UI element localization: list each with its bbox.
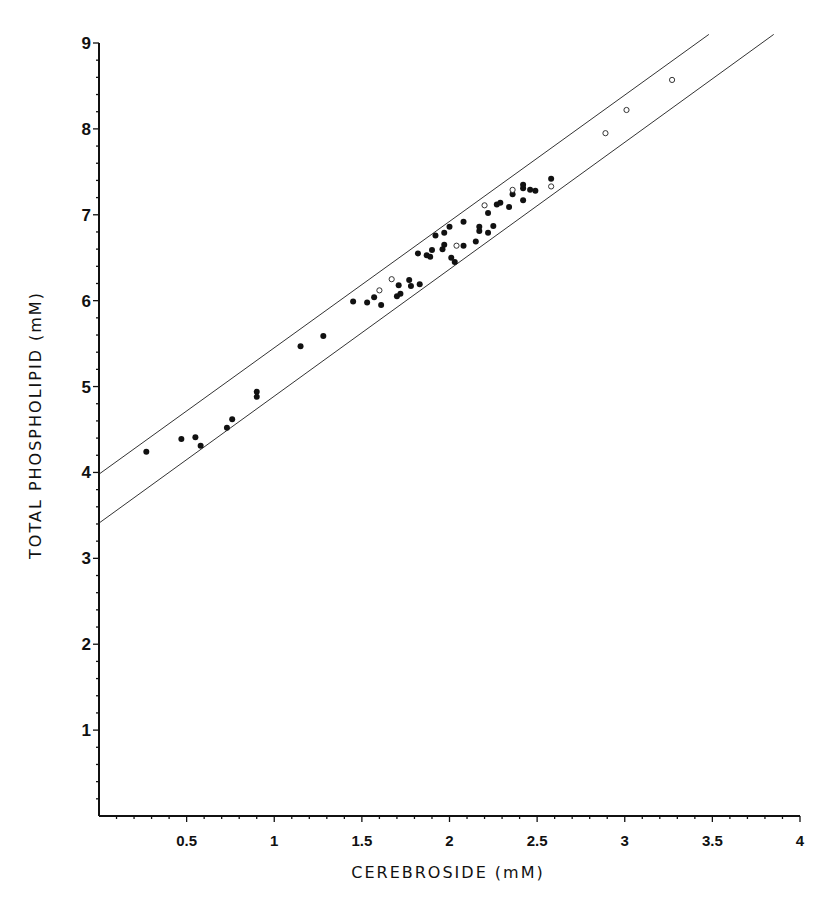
filled-circle-point — [198, 443, 204, 449]
filled-circle-point — [415, 250, 421, 256]
filled-circle-point — [452, 259, 458, 265]
upper-bound-line — [99, 34, 709, 474]
filled-circle-point — [461, 243, 467, 249]
open-circle-point — [389, 277, 394, 282]
filled-circle-point — [378, 302, 384, 308]
open-circle-point — [454, 243, 459, 248]
filled-circle-point — [298, 343, 304, 349]
x-tick-label: 0.5 — [176, 832, 197, 849]
filled-circle-point — [485, 210, 491, 216]
filled-circle-point — [229, 416, 235, 422]
open-circle-point — [603, 131, 608, 136]
x-tick-label: 2.5 — [527, 832, 548, 849]
open-circle-point — [377, 288, 382, 293]
filled-circle-point — [396, 282, 402, 288]
x-axis-ticks: 0.511.522.533.54 — [117, 816, 805, 849]
y-tick-label: 9 — [82, 34, 91, 53]
y-tick-label: 1 — [82, 721, 91, 740]
filled-circle-point — [408, 283, 414, 289]
filled-circle-point — [532, 188, 538, 194]
y-tick-label: 5 — [82, 378, 91, 397]
filled-circle-point — [506, 204, 512, 210]
filled-circle-point — [473, 238, 479, 244]
filled-circle-point — [320, 333, 326, 339]
x-tick-label: 1.5 — [351, 832, 372, 849]
x-axis-title: CEREBROSIDE (mM) — [351, 863, 544, 882]
open-circle-point — [482, 203, 487, 208]
x-tick-label: 1 — [270, 832, 278, 849]
open-circle-point — [624, 107, 629, 112]
x-tick-label: 4 — [796, 832, 805, 849]
y-axis-ticks: 123456789 — [82, 34, 99, 799]
y-axis-title: TOTAL PHOSPHOLIPID (mM) — [26, 291, 45, 560]
y-tick-label: 8 — [82, 120, 91, 139]
filled-circle-point — [490, 223, 496, 229]
filled-circle-point — [429, 247, 435, 253]
filled-circle-point — [548, 176, 554, 182]
confidence-band-lines — [99, 34, 774, 523]
filled-circle-point — [397, 291, 403, 297]
open-circle-point — [510, 187, 515, 192]
filled-circle-point — [441, 230, 447, 236]
filled-circle-point — [520, 182, 526, 188]
filled-circle-point — [254, 394, 260, 400]
data-points — [143, 77, 674, 454]
y-tick-label: 4 — [82, 463, 92, 482]
filled-circle-point — [254, 389, 260, 395]
filled-circle-point — [485, 230, 491, 236]
filled-circle-point — [143, 449, 149, 455]
filled-circle-point — [497, 200, 503, 206]
filled-circle-point — [461, 219, 467, 225]
scatter-chart: 123456789 0.511.522.533.54 CEREBROSIDE (… — [0, 0, 824, 905]
filled-circle-point — [224, 425, 230, 431]
filled-circle-point — [350, 299, 356, 305]
y-tick-label: 6 — [82, 292, 91, 311]
axes: 123456789 0.511.522.533.54 — [82, 34, 805, 849]
x-tick-label: 3 — [621, 832, 629, 849]
filled-circle-point — [192, 434, 198, 440]
filled-circle-point — [406, 277, 412, 283]
filled-circle-point — [178, 436, 184, 442]
x-tick-label: 2 — [445, 832, 453, 849]
filled-circle-point — [417, 281, 423, 287]
filled-circle-point — [447, 224, 453, 230]
filled-circle-point — [364, 299, 370, 305]
y-tick-label: 3 — [82, 549, 91, 568]
filled-circle-point — [371, 294, 377, 300]
y-tick-label: 7 — [82, 206, 91, 225]
open-circle-point — [549, 184, 554, 189]
filled-circle-point — [439, 246, 445, 252]
filled-circle-point — [520, 197, 526, 203]
x-tick-label: 3.5 — [702, 832, 723, 849]
y-tick-label: 2 — [82, 635, 91, 654]
filled-circle-point — [427, 254, 433, 260]
filled-circle-point — [527, 187, 533, 193]
filled-circle-point — [476, 224, 482, 230]
open-circle-point — [669, 77, 674, 82]
lower-bound-line — [99, 34, 774, 523]
filled-circle-point — [432, 232, 438, 238]
